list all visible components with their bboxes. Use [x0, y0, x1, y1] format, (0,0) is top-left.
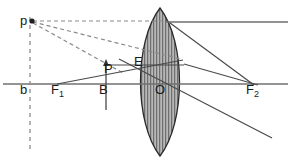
label-virtual-object-point-p: p [20, 14, 27, 27]
label-axis-foot-b: b [20, 83, 27, 96]
label-F1-base: F [51, 82, 59, 97]
label-lens-center-O: O [155, 83, 165, 96]
label-object-foot-B: B [99, 83, 108, 96]
label-focal-point-F2: F2 [246, 83, 259, 96]
lens-ray-diagram: p b F1 B P E O F2 [0, 0, 291, 166]
point-marker-p [29, 18, 34, 23]
label-focal-point-F1: F1 [51, 83, 64, 96]
label-F2-subscript: 2 [254, 89, 259, 99]
label-F1-subscript: 1 [59, 89, 64, 99]
label-F2-base: F [246, 82, 254, 97]
label-lens-point-E: E [134, 55, 143, 68]
label-object-point-P: P [104, 62, 113, 75]
